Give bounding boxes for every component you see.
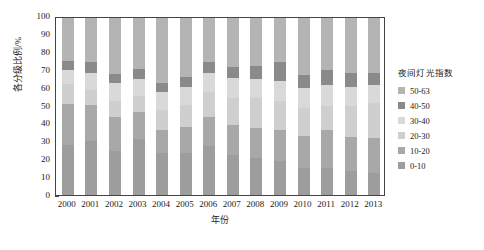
bar-segment-40-50 xyxy=(250,66,262,79)
legend-swatch-icon xyxy=(398,132,405,139)
y-axis-tick-label: 60 xyxy=(25,84,50,93)
legend-item-label: 0-10 xyxy=(410,161,426,171)
y-axis-tick-label: 80 xyxy=(25,48,50,57)
bar-segment-10-20 xyxy=(156,130,168,153)
bar-2005 xyxy=(180,18,192,195)
bar-segment-30-40 xyxy=(109,83,121,102)
bar-2001 xyxy=(85,18,97,195)
bar-segment-50-63 xyxy=(368,18,380,73)
bar-segment-30-40 xyxy=(345,87,357,106)
legend-item-label: 40-50 xyxy=(410,101,430,111)
bar-2008 xyxy=(250,18,262,195)
legend-item-50-63: 50-63 xyxy=(398,83,453,98)
legend-item-label: 10-20 xyxy=(410,146,430,156)
plot-area xyxy=(55,17,385,196)
bar-segment-20-30 xyxy=(345,106,357,138)
bar-segment-40-50 xyxy=(109,74,121,83)
bar-segment-0-10 xyxy=(156,153,168,195)
bar-segment-40-50 xyxy=(274,62,286,81)
bar-segment-40-50 xyxy=(368,73,380,85)
bar-segment-10-20 xyxy=(321,130,333,168)
bar-segment-0-10 xyxy=(345,171,357,195)
bar-segment-40-50 xyxy=(227,67,239,79)
legend-items: 50-6340-5030-4020-3010-200-10 xyxy=(398,83,453,173)
bar-segment-30-40 xyxy=(62,70,74,84)
y-axis-title: 各分级比例/% xyxy=(11,10,24,120)
bar-segment-0-10 xyxy=(274,161,286,195)
bar-2012 xyxy=(345,18,357,195)
bar-2000 xyxy=(62,18,74,195)
bar-segment-40-50 xyxy=(85,62,97,73)
legend-item-0-10: 0-10 xyxy=(398,158,453,173)
legend-swatch-icon xyxy=(398,147,405,154)
bar-segment-20-30 xyxy=(203,92,215,117)
bar-segment-50-63 xyxy=(133,18,145,69)
bar-segment-0-10 xyxy=(180,153,192,195)
bar-segment-30-40 xyxy=(180,87,192,105)
bar-segment-50-63 xyxy=(298,18,310,75)
bar-segment-0-10 xyxy=(227,155,239,195)
legend-item-label: 20-30 xyxy=(410,131,430,141)
legend-item-10-20: 10-20 xyxy=(398,143,453,158)
bar-segment-20-30 xyxy=(133,96,145,112)
bar-segment-10-20 xyxy=(62,104,74,145)
bar-segment-20-30 xyxy=(85,90,97,105)
legend: 夜间灯光指数 50-6340-5030-4020-3010-200-10 xyxy=(398,66,453,173)
bar-segment-10-20 xyxy=(85,105,97,141)
legend-swatch-icon xyxy=(398,102,405,109)
y-axis-tick-label: 30 xyxy=(25,137,50,146)
bar-segment-0-10 xyxy=(133,139,145,195)
bar-segment-40-50 xyxy=(345,73,357,87)
y-axis-tick-label: 10 xyxy=(25,173,50,182)
bar-segment-30-40 xyxy=(298,88,310,108)
bar-segment-20-30 xyxy=(321,106,333,131)
bar-segment-10-20 xyxy=(368,138,380,173)
bar-segment-30-40 xyxy=(227,78,239,97)
y-axis-tick-label: 100 xyxy=(25,12,50,21)
legend-item-30-40: 30-40 xyxy=(398,113,453,128)
bar-segment-50-63 xyxy=(62,18,74,60)
bar-segment-10-20 xyxy=(250,128,262,158)
bar-segment-20-30 xyxy=(180,105,192,127)
bar-segment-50-63 xyxy=(227,18,239,67)
bar-segment-50-63 xyxy=(156,18,168,83)
bar-segment-40-50 xyxy=(298,75,310,88)
bar-segment-50-63 xyxy=(321,18,333,70)
bar-segment-50-63 xyxy=(250,18,262,66)
legend-item-label: 30-40 xyxy=(410,116,430,126)
bar-segment-0-10 xyxy=(85,141,97,195)
bar-segment-10-20 xyxy=(345,137,357,171)
bar-segment-30-40 xyxy=(250,79,262,98)
bar-segment-30-40 xyxy=(156,92,168,110)
bar-segment-10-20 xyxy=(133,112,145,139)
legend-item-20-30: 20-30 xyxy=(398,128,453,143)
legend-title: 夜间灯光指数 xyxy=(398,66,453,78)
bar-segment-0-10 xyxy=(368,173,380,195)
bar-segment-10-20 xyxy=(298,136,310,168)
bar-2013 xyxy=(368,18,380,195)
bar-segment-30-40 xyxy=(368,85,380,103)
bar-2003 xyxy=(133,18,145,195)
bar-segment-40-50 xyxy=(321,70,333,85)
bar-segment-20-30 xyxy=(250,98,262,128)
bar-segment-20-30 xyxy=(109,101,121,117)
x-axis-title: 年份 xyxy=(55,213,385,226)
bar-2006 xyxy=(203,18,215,195)
bar-segment-30-40 xyxy=(85,73,97,90)
y-axis-tick-label: 20 xyxy=(25,155,50,164)
bar-segment-0-10 xyxy=(298,168,310,195)
bar-segment-10-20 xyxy=(109,117,121,151)
bar-segment-20-30 xyxy=(368,103,380,138)
bar-segment-0-10 xyxy=(250,158,262,195)
y-axis-tick-label: 40 xyxy=(25,119,50,128)
bar-segment-30-40 xyxy=(133,79,145,96)
bar-2010 xyxy=(298,18,310,195)
bar-2009 xyxy=(274,18,286,195)
y-axis-tick-mark xyxy=(55,196,59,197)
bar-segment-40-50 xyxy=(180,77,192,87)
bar-segment-10-20 xyxy=(180,127,192,153)
y-axis-tick-label: 70 xyxy=(25,66,50,75)
bar-2007 xyxy=(227,18,239,195)
bar-segment-0-10 xyxy=(321,168,333,195)
bar-segment-40-50 xyxy=(203,62,215,73)
